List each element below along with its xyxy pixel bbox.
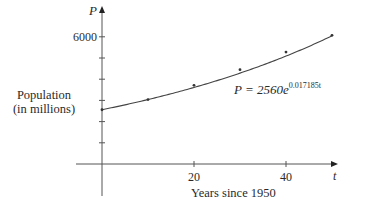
x-axis-arrow-icon [331,161,338,167]
y-axis-title-line2: (in millions) [13,102,75,116]
data-point [331,34,334,37]
data-points [101,34,334,111]
data-point [101,108,104,111]
data-point [239,68,242,71]
equation-base: P = 2560e [233,82,289,97]
y-axis-title-line1: Population [17,88,72,102]
x-axis-title: Years since 1950 [191,186,276,200]
data-point [147,98,150,101]
data-point [193,84,196,87]
y-axis-variable-label: P [88,3,97,18]
x-axis-variable-label: t [333,169,337,183]
y-tick-label-6000: 6000 [73,30,97,44]
x-tick-label-20: 20 [188,170,200,184]
x-tick-label-40: 40 [280,170,292,184]
population-chart: P t 6000 20 40 Population (in millions) … [0,0,370,208]
y-axis-arrow-icon [99,6,105,13]
axes [76,6,338,196]
exponential-model-curve [102,36,332,110]
equation-exponent: 0.017185t [289,81,322,90]
data-point [285,51,288,54]
equation-annotation: P = 2560e0.017185t [233,81,322,97]
